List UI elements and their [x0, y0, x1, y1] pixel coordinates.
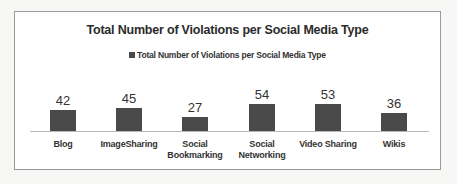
bar-value-label: 27 — [175, 100, 215, 115]
bar-value-label: 53 — [308, 87, 348, 102]
bar — [50, 110, 76, 131]
bar — [381, 113, 407, 131]
bar — [315, 104, 341, 131]
bar-value-label: 45 — [109, 91, 149, 106]
legend-swatch — [129, 52, 135, 58]
legend-label: Total Number of Violations per Social Me… — [137, 50, 326, 60]
chart-frame: Total Number of Violations per Social Me… — [14, 11, 441, 170]
bar — [249, 104, 275, 131]
bar-value-label: 54 — [242, 87, 282, 102]
chart-title: Total Number of Violations per Social Me… — [15, 23, 440, 37]
chart-legend: Total Number of Violations per Social Me… — [15, 50, 440, 60]
bar — [116, 108, 142, 131]
bar — [182, 117, 208, 131]
bar-value-label: 36 — [374, 96, 414, 111]
category-label: Wikis — [354, 139, 434, 150]
bar-value-label: 42 — [43, 93, 83, 108]
x-axis-baseline — [30, 131, 429, 132]
